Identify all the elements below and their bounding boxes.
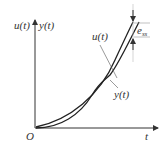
curve-u-label: u(t) — [92, 30, 108, 43]
leader-y — [110, 80, 118, 88]
x-axis-label: t — [145, 130, 149, 142]
curve-y — [36, 22, 139, 128]
curve-y-label: y(t) — [113, 88, 130, 101]
ramp-response-diagram: u(t) y(t) u(t) y(t) O t ess — [0, 0, 167, 147]
y-axis-label-u: u(t) — [14, 19, 30, 32]
y-axis-label-y: y(t) — [38, 19, 55, 32]
error-label: ess — [137, 24, 148, 38]
origin-label: O — [26, 130, 34, 142]
curve-u — [36, 22, 133, 127]
